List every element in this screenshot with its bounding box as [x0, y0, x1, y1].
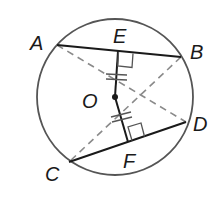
label-e: E	[113, 25, 127, 47]
label-o: O	[82, 90, 98, 112]
tick-mark-oe-1	[106, 74, 127, 75]
tick-mark-oe-2	[106, 79, 127, 80]
label-f: F	[123, 150, 137, 172]
label-c: C	[45, 163, 60, 185]
label-d: D	[193, 113, 207, 135]
circle-diagram: A E B O D F C	[0, 0, 219, 203]
center-point-o	[112, 94, 118, 100]
label-b: B	[190, 41, 203, 63]
right-angle-mark-e	[118, 52, 133, 68]
label-a: A	[29, 32, 43, 54]
